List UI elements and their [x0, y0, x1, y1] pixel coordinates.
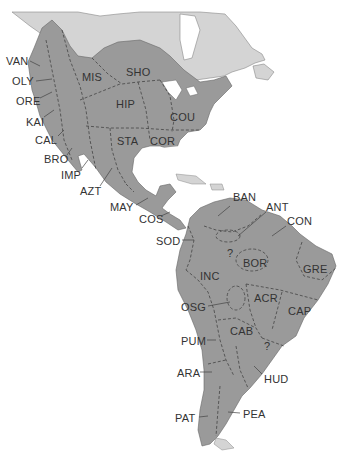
region-label-cor: COR — [150, 136, 175, 147]
newfoundland — [253, 64, 274, 80]
region-label-oly: OLY — [12, 76, 34, 87]
region-label-ban: BAN — [233, 192, 256, 203]
region-label-pum: PUM — [181, 336, 206, 347]
hispaniola — [210, 184, 224, 190]
region-label-sod: SOD — [156, 236, 180, 247]
region-label-con: CON — [287, 216, 312, 227]
region-label-azt: AZT — [80, 186, 101, 197]
region-label-imp: IMP — [61, 170, 81, 181]
region-label-sta: STA — [117, 136, 138, 147]
region-label-hip: HIP — [116, 99, 135, 110]
unknown-region-marker: ? — [264, 341, 270, 352]
region-label-kai: KAI — [26, 117, 44, 128]
region-label-ara: ARA — [177, 368, 200, 379]
region-label-cos: COS — [139, 214, 163, 225]
region-label-cal: CAL — [35, 135, 57, 146]
region-label-bro: BRO — [44, 154, 68, 165]
region-label-hud: HUD — [264, 374, 288, 385]
region-label-gre: GRE — [303, 264, 327, 275]
region-label-pat: PAT — [175, 413, 195, 424]
region-label-ore: ORE — [16, 96, 40, 107]
unknown-region-marker: ? — [227, 248, 233, 259]
region-label-mis: MIS — [82, 72, 102, 83]
region-label-sho: SHO — [126, 67, 150, 78]
region-label-cou: COU — [170, 112, 195, 123]
region-label-osg: OSG — [181, 302, 206, 313]
gulf-of-mexico — [138, 146, 186, 176]
region-label-acr: ACR — [254, 293, 278, 304]
region-label-inc: INC — [200, 271, 220, 282]
region-label-pea: PEA — [243, 409, 266, 420]
region-label-bor: BOR — [243, 258, 267, 269]
region-label-van: VAN — [6, 56, 28, 67]
region-label-ant: ANT — [266, 202, 289, 213]
tierra-del-fuego — [214, 438, 234, 450]
americas-map — [0, 0, 346, 460]
region-label-may: MAY — [110, 202, 134, 213]
cuba — [176, 174, 206, 184]
region-label-cab: CAB — [230, 326, 253, 337]
region-label-cap: CAP — [288, 306, 311, 317]
